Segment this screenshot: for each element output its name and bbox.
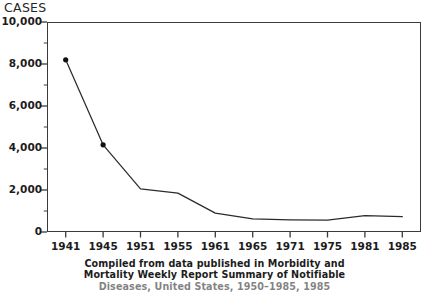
caption-line-1: Compiled from data published in Morbidit… — [0, 258, 429, 269]
chart-caption: Compiled from data published in Morbidit… — [0, 258, 429, 292]
y-tick-label: 4,000 — [0, 141, 42, 153]
x-axis-ticks — [66, 232, 403, 238]
y-tick-label: 6,000 — [0, 99, 42, 111]
y-tick-label: 8,000 — [0, 57, 42, 69]
y-tick-label: 2,000 — [0, 183, 42, 195]
plot-area-frame — [47, 22, 421, 232]
y-axis-title: CASES — [4, 0, 47, 15]
x-tick-label: 1985 — [380, 240, 424, 252]
caption-line-3: Diseases, United States, 1950–1985, 1985 — [0, 281, 429, 292]
y-tick-label: 10,000 — [0, 15, 42, 27]
caption-line-2: Mortality Weekly Report Summary of Notif… — [0, 269, 429, 280]
y-tick-label: 0 — [0, 225, 42, 237]
